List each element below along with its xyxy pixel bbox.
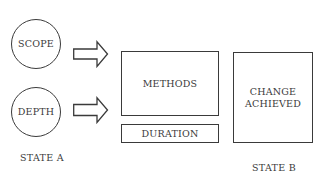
block-arrow-right-icon [73,41,109,68]
depth-circle: DEPTH [11,87,61,137]
duration-box: DURATION [121,124,219,143]
methods-box: METHODS [121,51,219,116]
achieved-label: ACHIEVED [245,98,301,110]
change-label: CHANGE [250,86,296,98]
change-achieved-box: CHANGE ACHIEVED [233,52,313,143]
depth-label: DEPTH [18,106,55,118]
scope-circle: SCOPE [11,19,61,69]
state-b-label: STATE B [252,162,296,173]
duration-label: DURATION [142,128,199,140]
methods-label: METHODS [143,78,198,90]
state-a-label: STATE A [20,152,64,163]
scope-label: SCOPE [18,38,54,50]
block-arrow-right-icon [73,97,109,124]
